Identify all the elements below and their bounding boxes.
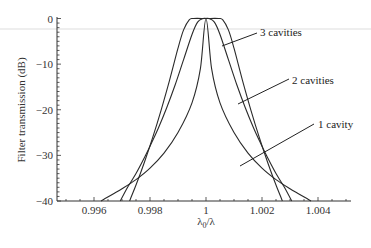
- curve-2-cavities: [120, 18, 291, 201]
- curve-3-cavities: [130, 18, 283, 201]
- y-tick-label: −10: [36, 58, 54, 70]
- label-1-cavity: 1 cavity: [318, 118, 354, 130]
- plot-curves: [101, 18, 311, 201]
- leader-3-cavities: [222, 33, 257, 46]
- x-tick-label: 1.002: [250, 204, 275, 216]
- x-tick-label: 0.996: [82, 204, 107, 216]
- x-tick-label: 0.998: [138, 204, 163, 216]
- x-tick-label: 1.004: [306, 204, 331, 216]
- leader-1-cavity: [240, 124, 314, 166]
- label-3-cavities: 3 cavities: [260, 26, 302, 38]
- y-tick-label: −20: [36, 104, 54, 116]
- x-axis-title: λ0/λ: [197, 215, 215, 230]
- curve-1-cavity: [101, 19, 311, 202]
- y-axis-title: Filter transmission (dB): [15, 57, 28, 162]
- filter-transmission-chart: 0−10−20−30−40 0.9960.99811.0021.004 Filt…: [0, 0, 371, 248]
- label-2-cavities: 2 cavities: [292, 74, 334, 86]
- y-tick-label: −30: [36, 149, 54, 161]
- y-tick-label: 0: [48, 13, 54, 25]
- axes: 0−10−20−30−40 0.9960.99811.0021.004: [36, 13, 351, 217]
- x-ticks: 0.9960.99811.0021.004: [66, 197, 346, 216]
- y-ticks: 0−10−20−30−40: [36, 13, 61, 208]
- y-tick-label: −40: [36, 195, 54, 207]
